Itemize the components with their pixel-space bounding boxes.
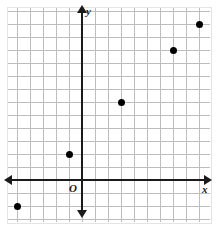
y-axis-line (81, 12, 83, 212)
data-point (118, 99, 125, 106)
grid-background (8, 8, 210, 222)
data-point (14, 203, 21, 210)
x-axis-line (10, 179, 206, 181)
grid-line-horizontal (8, 50, 210, 51)
y-axis-arrow-down-icon (77, 210, 87, 218)
grid-line-horizontal (8, 141, 210, 142)
grid-line-horizontal (8, 154, 210, 155)
coordinate-plane-figure: y x O (0, 0, 217, 227)
grid-line-horizontal (8, 115, 210, 116)
grid-line-horizontal (8, 206, 210, 207)
grid-line-horizontal (8, 102, 210, 103)
origin-label: O (69, 183, 77, 194)
grid-line-horizontal (8, 89, 210, 90)
grid-line-horizontal (8, 193, 210, 194)
grid-line-horizontal (8, 37, 210, 38)
grid-line-horizontal (8, 128, 210, 129)
grid-line-horizontal (8, 11, 210, 12)
data-point (170, 47, 177, 54)
y-axis-label: y (86, 6, 91, 17)
grid-line-horizontal (8, 219, 210, 220)
x-axis-arrow-left-icon (4, 175, 12, 185)
grid-line-horizontal (8, 24, 210, 25)
grid-line-horizontal (8, 76, 210, 77)
data-point (196, 21, 203, 28)
grid-line-horizontal (8, 63, 210, 64)
x-axis-label: x (202, 184, 208, 195)
data-point (66, 151, 73, 158)
grid-line-horizontal (8, 167, 210, 168)
